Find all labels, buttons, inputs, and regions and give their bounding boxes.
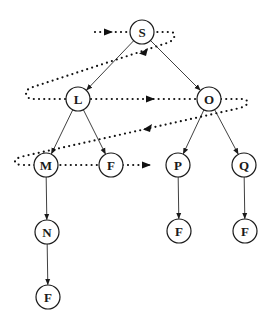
edge-l-f1 [83, 110, 105, 154]
edge-m-n [46, 177, 47, 220]
node-n: N [35, 220, 59, 244]
edge-s-l [87, 41, 134, 90]
edge-n-f4 [47, 244, 48, 285]
edge-q-f3 [244, 177, 245, 219]
node-l: L [66, 87, 90, 111]
traversal-arrow-icon [142, 162, 151, 169]
node-m: M [34, 153, 58, 177]
node-f2: F [167, 219, 191, 243]
node-label: F [44, 290, 52, 305]
traversal-arrow-icon [146, 96, 155, 103]
node-label: O [204, 92, 214, 107]
node-f1: F [99, 153, 123, 177]
edge-l-m [51, 110, 72, 154]
node-f3: F [233, 219, 257, 243]
node-label: F [107, 158, 115, 173]
node-f4: F [36, 285, 60, 309]
traversal-arrow-icon [104, 29, 113, 36]
tree-edges [46, 40, 245, 284]
node-p: P [166, 153, 190, 177]
tree-diagram: SLOMFPQNFFF [0, 0, 270, 327]
edge-s-o [150, 40, 200, 90]
node-q: Q [232, 153, 256, 177]
traversal-arrow-icon [139, 48, 148, 56]
node-label: M [40, 158, 52, 173]
node-label: L [74, 92, 83, 107]
node-label: S [138, 25, 145, 40]
traversal-arrow-icon [143, 124, 152, 132]
node-label: F [175, 224, 183, 239]
node-label: P [174, 158, 182, 173]
node-o: O [197, 87, 221, 111]
edge-p-f2 [178, 177, 179, 219]
node-label: Q [239, 158, 249, 173]
node-s: S [130, 20, 154, 44]
node-label: N [42, 225, 52, 240]
edge-o-q [215, 110, 239, 154]
node-label: F [241, 224, 249, 239]
